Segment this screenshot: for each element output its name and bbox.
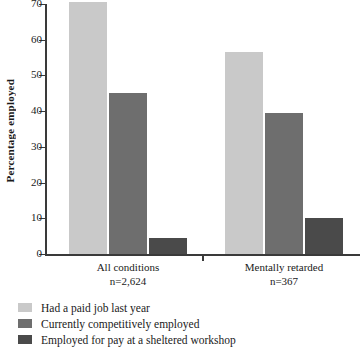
- y-tick-label: 70: [31, 0, 42, 11]
- category-sample-size: n=367: [205, 274, 363, 288]
- legend-swatch: [18, 335, 32, 344]
- y-axis-title-text: Percentage employed: [4, 79, 16, 182]
- legend-item: Employed for pay at a sheltered workshop: [18, 332, 358, 347]
- legend-item: Currently competitively employed: [18, 316, 358, 331]
- bar: [149, 238, 187, 254]
- y-tick-label: 20: [31, 175, 42, 190]
- chart-legend: Had a paid job last yearCurrently compet…: [18, 300, 358, 348]
- bar: [265, 113, 303, 254]
- legend-label: Had a paid job last year: [41, 301, 150, 315]
- bar-chart: Percentage employed 010203040506070 All …: [0, 0, 364, 348]
- y-tick-label: 30: [31, 139, 42, 154]
- category-label: All conditionsn=2,624: [49, 260, 207, 288]
- category-name: Mentally retarded: [205, 260, 363, 274]
- bar: [305, 218, 343, 254]
- legend-swatch: [18, 319, 32, 328]
- y-axis-title: Percentage employed: [0, 0, 20, 262]
- y-tick-label: 40: [31, 103, 42, 118]
- legend-item: Had a paid job last year: [18, 300, 358, 315]
- y-tick-label: 10: [31, 210, 42, 225]
- legend-swatch: [18, 303, 32, 312]
- bar: [69, 2, 107, 254]
- y-tick-label: 0: [37, 246, 43, 261]
- bar: [109, 93, 147, 254]
- y-tick-label: 60: [31, 32, 42, 47]
- legend-label: Employed for pay at a sheltered workshop: [41, 333, 236, 347]
- bar: [225, 52, 263, 254]
- category-labels: All conditionsn=2,624Mentally retardedn=…: [45, 260, 360, 294]
- category-sample-size: n=2,624: [49, 274, 207, 288]
- category-name: All conditions: [49, 260, 207, 274]
- category-label: Mentally retardedn=367: [205, 260, 363, 288]
- plot-area: 010203040506070: [45, 4, 360, 256]
- y-tick-label: 50: [31, 67, 42, 82]
- legend-label: Currently competitively employed: [41, 317, 199, 331]
